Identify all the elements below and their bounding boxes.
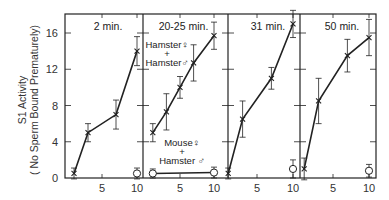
panel-title: 20-25 min. (159, 20, 209, 32)
circle-marker (149, 170, 156, 177)
y-tick-label: 0 (52, 172, 58, 184)
y-tick-label: 16 (46, 27, 58, 39)
y-tick-label: 12 (46, 63, 58, 75)
y-tick-label: 4 (52, 136, 58, 148)
circle-marker (365, 167, 372, 174)
series-line (153, 36, 214, 133)
series-line (74, 51, 137, 173)
circle-marker (289, 165, 296, 172)
x-tick-label: 5 (177, 182, 183, 194)
x-tick-label: 10 (363, 182, 375, 194)
x-tick-label: 5 (254, 182, 260, 194)
y-tick-label: 8 (52, 100, 58, 112)
circle-marker (133, 170, 140, 177)
series-line (228, 24, 293, 174)
chart-area: 04812165102 min.51020-25 min.Hamster♀+Ha… (0, 0, 389, 200)
legend-annotation: Hamster ♂ (159, 155, 205, 166)
legend-annotation: Hamster♂ (145, 57, 188, 68)
x-tick-label: 10 (287, 182, 299, 194)
series-line (153, 173, 214, 174)
x-tick-label: 5 (330, 182, 336, 194)
x-tick-label: 10 (131, 182, 143, 194)
series-line (304, 38, 369, 169)
panel-title: 50 min. (325, 20, 359, 32)
x-tick-label: 5 (99, 182, 105, 194)
panel-title: 2 min. (94, 20, 123, 32)
panel-title: 31 min. (251, 20, 285, 32)
x-tick-label: 10 (208, 182, 220, 194)
plot-frame (65, 14, 376, 178)
circle-marker (210, 169, 217, 176)
